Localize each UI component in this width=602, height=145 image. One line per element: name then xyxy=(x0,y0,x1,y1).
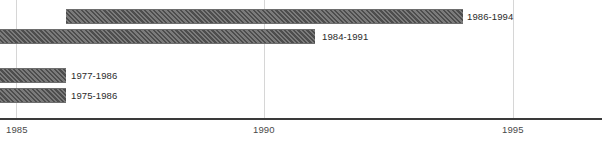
bar-label: 1977-1986 xyxy=(71,68,117,83)
timeline-chart: 1986-1994 1984-1991 1977-1986 1975-1986 … xyxy=(0,0,602,145)
bar-label: 1975-1986 xyxy=(71,88,117,103)
x-axis-tick-label: 1995 xyxy=(502,124,524,136)
timeline-bar[interactable] xyxy=(0,68,66,83)
bar-label: 1984-1991 xyxy=(322,29,368,44)
timeline-bar[interactable] xyxy=(0,29,315,44)
x-axis-tick-label: 1985 xyxy=(6,124,28,136)
timeline-bar[interactable] xyxy=(0,88,66,103)
x-axis-tick-label: 1990 xyxy=(253,124,275,136)
bar-label: 1986-1994 xyxy=(467,9,513,24)
x-axis-line xyxy=(0,118,602,120)
plot-area: 1986-1994 1984-1991 1977-1986 1975-1986 xyxy=(0,0,602,118)
timeline-bar[interactable] xyxy=(66,9,463,24)
